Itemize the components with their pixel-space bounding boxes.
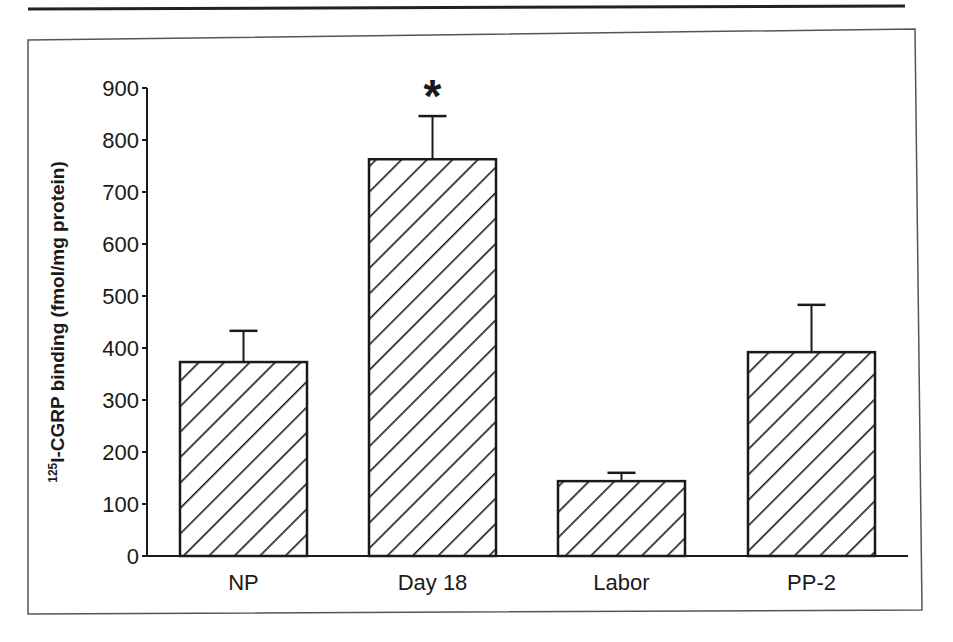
y-tick-label: 900	[102, 76, 139, 101]
y-tick-label: 800	[102, 128, 139, 153]
y-axis-title: 125I-CGRP binding (fmol/mg protein)	[46, 161, 68, 483]
y-tick-label: 300	[102, 388, 139, 413]
bars: NP*Day 18LaborPP-2	[180, 70, 875, 595]
bar-day-18: *Day 18	[369, 70, 496, 595]
y-tick-label: 500	[102, 284, 139, 309]
page-top-rule	[28, 6, 905, 9]
bar-rect	[558, 481, 685, 556]
bar-rect	[180, 362, 307, 556]
bar-rect	[369, 159, 496, 556]
x-category-label: Labor	[593, 570, 649, 595]
y-tick-label: 600	[102, 232, 139, 257]
significance-asterisk: *	[424, 70, 442, 122]
y-axis: 0100200300400500600700800900	[102, 76, 147, 569]
y-tick-label: 200	[102, 440, 139, 465]
figure: 125I-CGRP binding (fmol/mg protein) 0100…	[0, 0, 953, 642]
y-tick-label: 700	[102, 180, 139, 205]
y-tick-label: 400	[102, 336, 139, 361]
y-tick-label: 0	[127, 544, 139, 569]
y-tick-label: 100	[102, 492, 139, 517]
bar-chart: 125I-CGRP binding (fmol/mg protein) 0100…	[0, 0, 953, 642]
bar-rect	[748, 352, 875, 556]
y-axis-title-superscript: 125	[46, 462, 60, 482]
x-category-label: Day 18	[398, 570, 468, 595]
x-category-label: PP-2	[787, 570, 836, 595]
x-category-label: NP	[228, 570, 259, 595]
bar-labor: Labor	[558, 473, 685, 595]
svg-text:125I-CGRP binding (fmol/mg pro: 125I-CGRP binding (fmol/mg protein)	[46, 161, 68, 483]
y-axis-title-text: I-CGRP binding (fmol/mg protein)	[47, 161, 68, 463]
bar-pp-2: PP-2	[748, 305, 875, 595]
